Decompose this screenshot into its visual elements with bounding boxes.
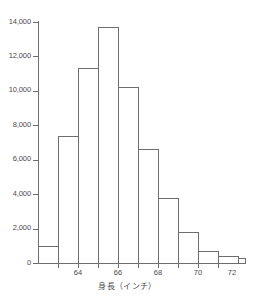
y-axis-tick-label: 10,000 bbox=[1, 86, 31, 94]
histogram-bar bbox=[198, 251, 219, 264]
y-axis-tick-label: 8,000 bbox=[1, 121, 31, 129]
histogram-bar bbox=[138, 149, 159, 264]
y-axis-label-group: 6,000 bbox=[0, 155, 31, 163]
histogram-bar bbox=[238, 258, 246, 264]
y-axis-label-group: 2,000 bbox=[0, 224, 31, 232]
y-axis-tick-label: 2,000 bbox=[1, 224, 31, 232]
x-axis-tick bbox=[98, 264, 99, 268]
x-axis-title: 身長（インチ） bbox=[0, 281, 255, 292]
histogram-bar bbox=[78, 68, 99, 264]
y-axis-label-group: 14,000 bbox=[0, 18, 31, 26]
y-axis-label-group: 0 bbox=[0, 259, 31, 267]
y-axis-tick-label: 6,000 bbox=[1, 155, 31, 163]
histogram-bar bbox=[58, 136, 79, 264]
y-axis-tick-label: 4,000 bbox=[1, 190, 31, 198]
y-axis-tick-label: 12,000 bbox=[1, 52, 31, 60]
y-axis-tick-label: 0 bbox=[1, 259, 31, 267]
x-axis-tick-label: 72 bbox=[220, 268, 244, 277]
x-axis-tick-label: 66 bbox=[106, 268, 130, 277]
x-axis-tick-label: 64 bbox=[66, 268, 90, 277]
x-axis-tick bbox=[138, 264, 139, 268]
y-axis-label-group: 10,000 bbox=[0, 86, 31, 94]
x-axis-tick-label: 68 bbox=[146, 268, 170, 277]
x-axis-tick bbox=[58, 264, 59, 268]
histogram-figure: 14,000 12,000 10,000 8,000 6,000 4,000 2… bbox=[0, 0, 255, 305]
y-axis-line bbox=[38, 21, 39, 264]
y-axis-label-group: 8,000 bbox=[0, 121, 31, 129]
histogram-bar bbox=[158, 198, 179, 264]
histogram-bar bbox=[38, 246, 59, 264]
y-axis-label-group: 12,000 bbox=[0, 52, 31, 60]
x-axis-tick bbox=[178, 264, 179, 268]
x-axis-tick bbox=[218, 264, 219, 268]
histogram-bar bbox=[98, 27, 119, 264]
y-axis-label-group: 4,000 bbox=[0, 190, 31, 198]
histogram-bar bbox=[118, 87, 139, 264]
histogram-bar bbox=[178, 232, 199, 264]
histogram-bar bbox=[218, 256, 239, 264]
y-axis-tick-label: 14,000 bbox=[1, 18, 31, 26]
x-axis-tick-label: 70 bbox=[186, 268, 210, 277]
